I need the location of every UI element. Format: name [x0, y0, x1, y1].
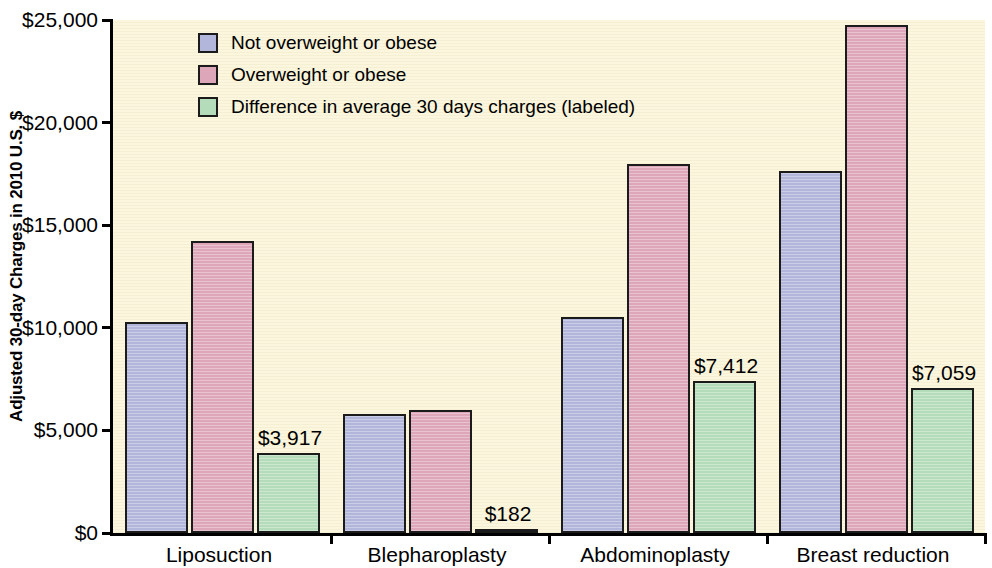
x-axis-category-label: Breast reduction — [797, 543, 950, 567]
y-axis-tick-label: $25,000 — [6, 8, 98, 32]
x-axis-tick-mark — [330, 533, 333, 544]
x-axis-tick-mark — [984, 533, 987, 544]
bar-chart-figure: Adjusted 30-day Charges in 2010 U.S. $ $… — [0, 0, 992, 568]
legend-swatch-icon — [198, 33, 218, 53]
bar-not-overweight — [561, 317, 624, 533]
bar-value-label: $7,412 — [694, 354, 758, 378]
plot-area: $3,917$182$7,412$7,059 Not overweight or… — [110, 20, 985, 536]
bar-overweight — [627, 164, 690, 533]
bar-not-overweight — [125, 322, 188, 533]
y-axis-tick-label: $20,000 — [6, 111, 98, 135]
y-axis-tick-label: $15,000 — [6, 213, 98, 237]
bar-difference — [911, 388, 974, 533]
bar-overweight — [409, 410, 472, 533]
legend-item: Not overweight or obese — [198, 32, 635, 54]
y-axis-tick-mark — [102, 532, 113, 535]
y-axis-tick-mark — [102, 19, 113, 22]
bar-value-label: $182 — [485, 502, 532, 526]
bar-overweight — [191, 241, 254, 533]
y-axis-tick-mark — [102, 429, 113, 432]
legend-item: Overweight or obese — [198, 64, 635, 86]
bar-difference — [475, 529, 538, 533]
x-axis-category-label: Abdominoplasty — [580, 543, 729, 567]
y-axis-tick-label: $5,000 — [6, 418, 98, 442]
y-axis-tick-label: $10,000 — [6, 316, 98, 340]
bar-value-label: $3,917 — [258, 426, 322, 450]
legend-swatch-icon — [198, 65, 218, 85]
y-axis-tick-mark — [102, 224, 113, 227]
x-axis-tick-mark — [548, 533, 551, 544]
x-axis-category-label: Liposuction — [166, 543, 272, 567]
legend-label: Overweight or obese — [231, 64, 406, 86]
y-axis-tick-labels: $0$5,000$10,000$15,000$20,000$25,000 — [0, 0, 98, 568]
y-axis-tick-label: $0 — [6, 521, 98, 545]
bar-difference — [257, 453, 320, 533]
x-axis-category-label: Blepharoplasty — [368, 543, 507, 567]
y-axis-tick-mark — [102, 121, 113, 124]
bar-overweight — [845, 25, 908, 533]
legend-swatch-icon — [198, 97, 218, 117]
bar-value-label: $7,059 — [912, 361, 976, 385]
legend-label: Difference in average 30 days charges (l… — [231, 96, 635, 118]
bar-difference — [693, 381, 756, 533]
bar-not-overweight — [343, 414, 406, 533]
legend-label: Not overweight or obese — [231, 32, 437, 54]
x-axis-tick-mark — [766, 533, 769, 544]
y-axis-tick-mark — [102, 326, 113, 329]
chart-legend: Not overweight or obeseOverweight or obe… — [198, 32, 635, 118]
legend-item: Difference in average 30 days charges (l… — [198, 96, 635, 118]
bar-not-overweight — [779, 171, 842, 533]
